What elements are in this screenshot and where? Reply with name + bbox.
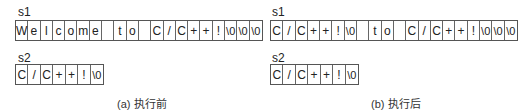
- array-cell: +: [455, 21, 467, 40]
- array-cell: \0: [492, 21, 504, 40]
- array-cell: C: [431, 21, 443, 40]
- array-cell: o: [65, 21, 77, 40]
- s1-array: Welcome to C/C++!\0\0\0: [15, 20, 263, 41]
- array-cell: C: [296, 65, 308, 84]
- s2-label: s2: [18, 52, 31, 64]
- s2-array: C/C++!\0: [15, 64, 104, 85]
- array-cell: +: [320, 21, 332, 40]
- array-cell: C: [271, 65, 283, 84]
- array-cell: +: [321, 65, 333, 84]
- array-cell: !: [213, 21, 225, 40]
- array-cell: l: [41, 21, 53, 40]
- array-cell: !: [332, 21, 344, 40]
- array-cell: /: [283, 65, 295, 84]
- array-cell: W: [16, 21, 28, 40]
- s1-label: s1: [272, 6, 285, 18]
- s2-array: C/C++!\0: [270, 64, 359, 85]
- array-cell: [102, 21, 114, 40]
- array-cell: o: [127, 21, 139, 40]
- array-cell: \0: [505, 21, 517, 40]
- s2-label: s2: [272, 52, 285, 64]
- array-cell: \0: [345, 21, 357, 40]
- array-cell: t: [114, 21, 126, 40]
- array-cell: C: [406, 21, 418, 40]
- array-cell: C: [151, 21, 163, 40]
- array-cell: m: [77, 21, 89, 40]
- array-cell: c: [53, 21, 65, 40]
- caption-before: (a) 执行前: [117, 95, 167, 111]
- array-cell: /: [164, 21, 176, 40]
- caption-after: (b) 执行后: [371, 95, 421, 111]
- s1-array: C/C++!\0 to C/C++!\0\0\0: [270, 20, 518, 41]
- array-cell: +: [66, 65, 78, 84]
- array-cell: +: [200, 21, 212, 40]
- array-cell: C: [176, 21, 188, 40]
- array-cell: +: [53, 65, 65, 84]
- array-cell: [394, 21, 406, 40]
- s1-label: s1: [18, 6, 31, 18]
- array-cell: \0: [346, 65, 358, 84]
- array-cell: +: [188, 21, 200, 40]
- array-cell: C: [271, 21, 283, 40]
- array-cell: !: [78, 65, 90, 84]
- array-cell: !: [468, 21, 480, 40]
- array-cell: /: [28, 65, 40, 84]
- array-cell: \0: [225, 21, 237, 40]
- array-cell: o: [382, 21, 394, 40]
- array-cell: e: [90, 21, 102, 40]
- array-cell: +: [308, 21, 320, 40]
- array-cell: [357, 21, 369, 40]
- array-cell: /: [419, 21, 431, 40]
- array-cell: \0: [237, 21, 249, 40]
- array-cell: e: [28, 21, 40, 40]
- array-cell: C: [41, 65, 53, 84]
- array-cell: \0: [480, 21, 492, 40]
- array-cell: \0: [250, 21, 262, 40]
- array-cell: C: [296, 21, 308, 40]
- array-cell: +: [308, 65, 320, 84]
- array-cell: +: [443, 21, 455, 40]
- array-cell: C: [16, 65, 28, 84]
- array-cell: !: [333, 65, 345, 84]
- array-cell: \0: [91, 65, 103, 84]
- array-cell: /: [283, 21, 295, 40]
- array-cell: t: [369, 21, 381, 40]
- array-cell: [139, 21, 151, 40]
